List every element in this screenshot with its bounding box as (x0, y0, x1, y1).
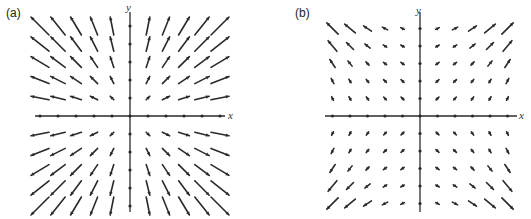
vector-field-plot-a: x y (0, 0, 265, 219)
y-axis-label-a: y (125, 1, 131, 13)
x-axis-label-b: x (518, 109, 524, 121)
vector-field-panel-b: (b) x y (265, 0, 531, 219)
vector-field-panel-a: (a) x y (0, 0, 265, 219)
vector-field-plot-b: x y (265, 0, 531, 219)
x-axis-label-a: x (227, 109, 233, 121)
y-axis-label-b: y (415, 4, 421, 16)
